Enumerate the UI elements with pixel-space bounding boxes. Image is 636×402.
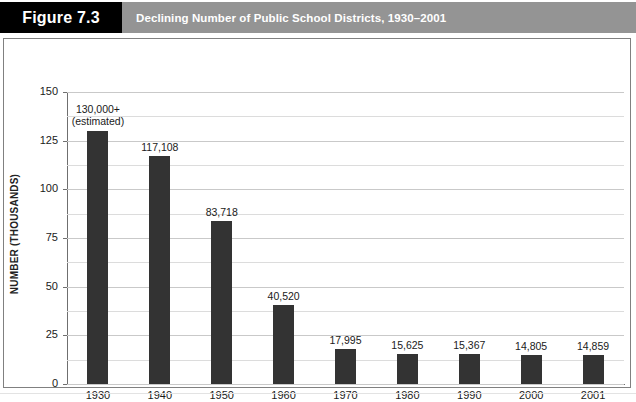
bar-value-line: (estimated): [72, 115, 125, 127]
gridline-major: [67, 92, 624, 93]
bar-value-line: 130,000+: [72, 103, 125, 115]
chart-frame: NUMBER (THOUSANDS) 0255075100125150 130,…: [3, 38, 631, 388]
y-axis-title-text: NUMBER (THOUSANDS): [9, 159, 20, 309]
plot-area: 130,000+(estimated)117,10883,71840,52017…: [67, 92, 624, 384]
x-tick-label: 1980: [395, 389, 419, 401]
x-tick-label: 2000: [519, 389, 543, 401]
bar: [273, 305, 294, 384]
y-tick-label: 150: [24, 85, 58, 97]
y-tick-label: 50: [24, 280, 58, 292]
bar-value-line: 14,805: [515, 340, 547, 352]
footer-divider: [0, 393, 636, 394]
bar: [87, 131, 108, 384]
bar-value-label: 17,995: [329, 334, 361, 346]
bar-value-line: 40,520: [268, 290, 300, 302]
bar: [211, 221, 232, 384]
bar-value-label: 15,625: [391, 339, 423, 351]
y-tick-label: 100: [24, 182, 58, 194]
bar-value-label: 117,108: [141, 141, 178, 153]
bar: [583, 355, 604, 384]
figure-header-strip: Figure 7.3 Declining Number of Public Sc…: [0, 2, 636, 33]
x-tick-label: 1970: [333, 389, 357, 401]
bar-value-label: 14,859: [577, 340, 609, 352]
y-tick-label: 0: [24, 377, 58, 389]
bar-value-line: 117,108: [141, 141, 178, 153]
bar-value-line: 17,995: [329, 334, 361, 346]
bar-value-line: 15,625: [391, 339, 423, 351]
bar: [459, 354, 480, 384]
x-tick-label: 1990: [457, 389, 481, 401]
bar-value-line: 14,859: [577, 340, 609, 352]
x-tick-label: 1950: [209, 389, 233, 401]
bar-value-line: 83,718: [206, 206, 238, 218]
bar-value-label: 83,718: [206, 206, 238, 218]
x-tick-label: 1930: [86, 389, 110, 401]
y-tick-label: 25: [24, 328, 58, 340]
gridline-major: [67, 384, 624, 385]
x-tick-label: 1940: [148, 389, 172, 401]
bar-value-label: 15,367: [453, 339, 485, 351]
bar: [397, 354, 418, 384]
figure-title: Declining Number of Public School Distri…: [122, 2, 636, 33]
gridline-minor: [67, 116, 624, 117]
bar-value-label: 14,805: [515, 340, 547, 352]
x-tick-label: 1960: [271, 389, 295, 401]
x-tick-label: 2001: [581, 389, 605, 401]
bar: [335, 349, 356, 384]
y-tick-label: 125: [24, 134, 58, 146]
bar-value-line: 15,367: [453, 339, 485, 351]
bar: [149, 156, 170, 384]
bar-value-label: 40,520: [268, 290, 300, 302]
bar-value-label: 130,000+(estimated): [72, 103, 125, 127]
bar: [521, 355, 542, 384]
y-tick-label: 75: [24, 231, 58, 243]
